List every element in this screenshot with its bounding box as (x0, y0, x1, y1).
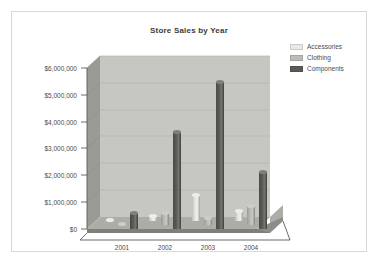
bar-face (259, 172, 267, 229)
bar-cap (106, 218, 114, 222)
bar-accessories-2004 (235, 211, 243, 221)
bar-components-2001 (130, 213, 138, 229)
legend-item-accessories[interactable]: Accessories (290, 42, 364, 51)
bar-accessories-2002 (149, 216, 157, 221)
bar-components-2002 (173, 132, 181, 229)
bar-accessories-2001 (106, 220, 114, 222)
bar-clothing-2004 (247, 206, 255, 225)
bar-cap (216, 80, 224, 84)
bar-face (216, 82, 224, 229)
bar-components-2003 (216, 82, 224, 229)
legend-label-clothing: Clothing (307, 54, 331, 61)
bar-cap (118, 222, 126, 226)
legend-swatch-clothing (290, 55, 303, 61)
bar-face (173, 132, 181, 229)
legend-item-components[interactable]: Components (290, 64, 364, 73)
bar-face (192, 195, 200, 221)
bar-clothing-2002 (161, 213, 169, 225)
bar-cap (173, 130, 181, 134)
bar-clothing-2001 (118, 224, 126, 226)
legend-swatch-components (290, 66, 303, 72)
chart-frame: Store Sales by Year (11, 11, 367, 252)
legend-swatch-accessories (290, 44, 303, 50)
bar-cap (235, 209, 243, 213)
bar-components-2004 (259, 172, 267, 229)
bar-clothing-2003 (204, 218, 212, 225)
chart-legend: Accessories Clothing Components (290, 42, 364, 75)
bar-face (161, 213, 169, 225)
bar-cap (130, 211, 138, 215)
bar-accessories-2003 (192, 195, 200, 221)
legend-label-accessories: Accessories (307, 43, 342, 50)
bar-face (247, 206, 255, 225)
legend-item-clothing[interactable]: Clothing (290, 53, 364, 62)
bar-cap (192, 193, 200, 197)
bar-face (130, 213, 138, 229)
legend-label-components: Components (307, 65, 344, 72)
